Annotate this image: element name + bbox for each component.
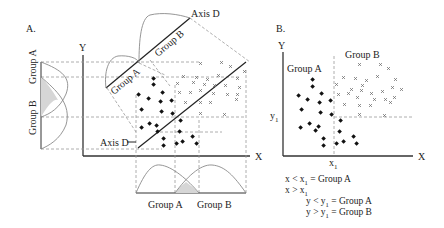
panel-b-group-b-label: Group B — [345, 49, 380, 60]
classification-diagram: A. Y X Group A Group B — [0, 0, 444, 228]
rule-4: y > y1 = Group B — [306, 207, 372, 219]
panel-b-y-label: Y — [278, 40, 285, 51]
x1-label: x1 — [329, 157, 338, 171]
bottom-group-b-label: Group B — [197, 199, 232, 210]
axis-d-projection: Axis D Group A Group B — [106, 8, 220, 97]
panel-a-x-label: X — [255, 151, 263, 162]
projection-line — [107, 88, 136, 132]
left-group-a-label: Group A — [27, 49, 38, 85]
rule-2: x > x1 — [285, 185, 308, 197]
panel-b: B. Y X Group A Group B y1 x1 — [270, 23, 426, 219]
panel-b-group-a-label: Group A — [287, 63, 323, 74]
projection-line — [190, 18, 250, 62]
axis-d-top-label: Axis D — [191, 8, 220, 19]
classification-rules: x < x1 = Group A x > x1 y < y1 = Group A… — [285, 174, 372, 219]
panel-a-y-label: Y — [79, 42, 86, 53]
panel-b-group-b-points — [335, 63, 403, 117]
panel-b-label: B. — [276, 23, 285, 34]
projection-line — [139, 63, 165, 75]
proj-group-b-label: Group B — [152, 28, 186, 59]
left-group-b-label: Group B — [27, 100, 38, 135]
proj-group-a-label: Group A — [108, 65, 142, 96]
panel-a-group-b-points — [176, 61, 246, 116]
rule-1: x < x1 = Group A — [285, 174, 351, 186]
panel-a-label: A. — [26, 23, 36, 34]
y1-label: y1 — [270, 110, 279, 124]
panel-b-group-a-points — [296, 77, 359, 148]
panel-a: A. Y X Group A Group B — [26, 8, 263, 210]
rule-3: y < y1 = Group A — [306, 196, 372, 208]
panel-a-group-a-points — [136, 76, 199, 148]
left-distribution: Group A Group B — [27, 49, 68, 150]
axis-d-bottom-label: Axis D — [100, 137, 129, 148]
projection-line — [150, 60, 170, 86]
panel-b-x-label: X — [418, 151, 426, 162]
bottom-distribution: Group A Group B — [136, 165, 246, 210]
bottom-group-a-label: Group A — [148, 199, 184, 210]
